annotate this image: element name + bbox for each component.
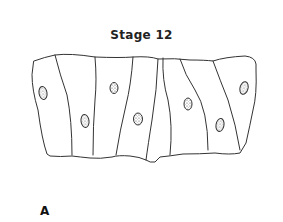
nucleus — [80, 114, 90, 128]
nucleus — [184, 98, 192, 110]
panel-label: A — [40, 204, 49, 218]
nucleus — [238, 81, 249, 96]
nucleus — [215, 118, 225, 132]
cell-divider — [213, 61, 240, 150]
cell-divider — [116, 57, 133, 155]
cell-layer-drawing — [0, 0, 283, 222]
nucleus — [110, 83, 118, 94]
cell-divider — [163, 58, 171, 155]
cell-layer-outline — [32, 54, 256, 162]
cell-divider — [146, 59, 158, 160]
cell-divider — [93, 57, 96, 155]
nucleus — [38, 86, 48, 100]
nucleus — [134, 113, 143, 125]
cell-divider — [55, 55, 72, 155]
